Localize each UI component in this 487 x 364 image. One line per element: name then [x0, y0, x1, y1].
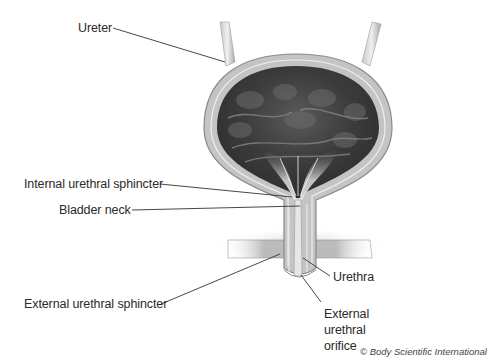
copyright-credit: © Body Scientific International — [360, 346, 487, 357]
label-urethra: Urethra — [333, 270, 374, 285]
right-ureter — [362, 22, 381, 66]
label-external-urethral-sphincter: External urethral sphincter — [24, 297, 167, 312]
label-internal-urethral-sphincter: Internal urethral sphincter — [24, 177, 163, 192]
leader-bladder-neck — [132, 206, 300, 210]
urethra-channel — [294, 200, 302, 276]
left-ureter — [220, 22, 235, 66]
leader-external-urethral-orifice — [301, 275, 321, 302]
leader-ureter — [113, 28, 225, 62]
leader-external-urethral-sphincter — [161, 254, 280, 304]
label-ureter: Ureter — [78, 21, 112, 36]
label-bladder-neck: Bladder neck — [59, 203, 131, 218]
